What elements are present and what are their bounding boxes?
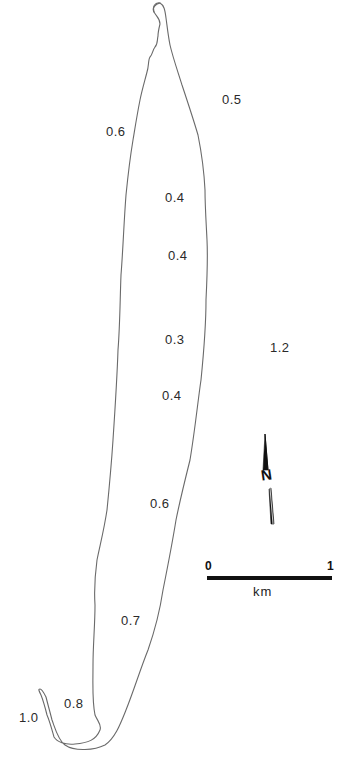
scale-unit-label: km xyxy=(253,585,272,598)
lake-shoreline xyxy=(39,3,208,750)
value-label-0.6-north: 0.6 xyxy=(106,125,126,138)
north-label: N xyxy=(260,466,273,482)
value-label-0.4-a: 0.4 xyxy=(165,191,185,204)
value-label-1.2: 1.2 xyxy=(270,341,290,354)
value-label-0.8: 0.8 xyxy=(64,697,84,710)
lake-outline xyxy=(0,0,357,773)
scale-start-label: 0 xyxy=(205,560,212,572)
value-label-0.4-b: 0.4 xyxy=(168,249,188,262)
map-canvas: 0.5 0.6 0.4 0.4 0.3 1.2 0.4 0.6 0.7 0.8 … xyxy=(0,0,357,773)
scale-end-label: 1 xyxy=(327,560,334,572)
value-label-0.6-south: 0.6 xyxy=(150,497,170,510)
scale-bar-line xyxy=(207,576,332,580)
value-label-0.3: 0.3 xyxy=(165,333,185,346)
value-label-0.4-c: 0.4 xyxy=(162,389,182,402)
value-label-0.7: 0.7 xyxy=(121,614,141,627)
value-label-1.0: 1.0 xyxy=(19,711,39,724)
value-label-0.5: 0.5 xyxy=(222,93,242,106)
